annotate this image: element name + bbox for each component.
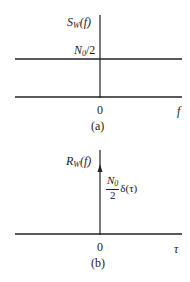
impulse-arrowhead-icon (98, 164, 103, 172)
impulse-fraction: N0 2 (106, 175, 119, 201)
panel-a-x-axis-label: f (177, 105, 180, 117)
fraction-numerator: N0 (106, 175, 119, 190)
delta-function: δ(τ) (120, 182, 137, 194)
panel-a-origin-label: 0 (97, 104, 103, 116)
level-label-symbol: N (74, 43, 82, 57)
panel-a-caption: (a) (91, 120, 104, 132)
impulse-weight-label: N0 2 δ(τ) (106, 175, 137, 201)
y-label-subscript: W (73, 160, 80, 169)
panel-b-x-axis-label: τ (174, 243, 178, 255)
panel-b-caption: (b) (91, 257, 105, 269)
numerator-subscript: 0 (114, 179, 118, 188)
panel-a-level-label: N0/2 (74, 44, 95, 58)
panel-a-y-axis-label: SW(f) (67, 16, 91, 30)
y-label-subscript: W (73, 21, 80, 30)
panel-b-origin-label: 0 (97, 241, 103, 253)
panel-b-y-axis-label: RW(f) (66, 155, 91, 169)
fraction-denominator: 2 (110, 190, 116, 201)
y-label-argument: (f) (80, 154, 91, 168)
level-label-divisor: /2 (86, 43, 95, 57)
y-label-argument: (f) (80, 15, 91, 29)
